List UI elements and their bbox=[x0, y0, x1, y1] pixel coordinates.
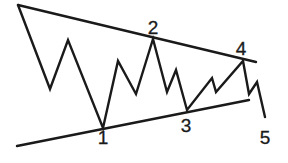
wave-label-1: 1 bbox=[98, 128, 109, 147]
diagram-canvas bbox=[0, 0, 288, 163]
wave-pattern-diagram: 1 2 3 4 5 bbox=[0, 0, 288, 163]
wave-label-4: 4 bbox=[236, 39, 247, 58]
wave-label-3: 3 bbox=[181, 116, 192, 135]
wave-label-5: 5 bbox=[260, 128, 271, 147]
price-wave-path bbox=[18, 5, 265, 128]
wave-label-2: 2 bbox=[148, 18, 159, 37]
lower-trendline bbox=[17, 100, 249, 146]
upper-trendline bbox=[18, 5, 256, 62]
